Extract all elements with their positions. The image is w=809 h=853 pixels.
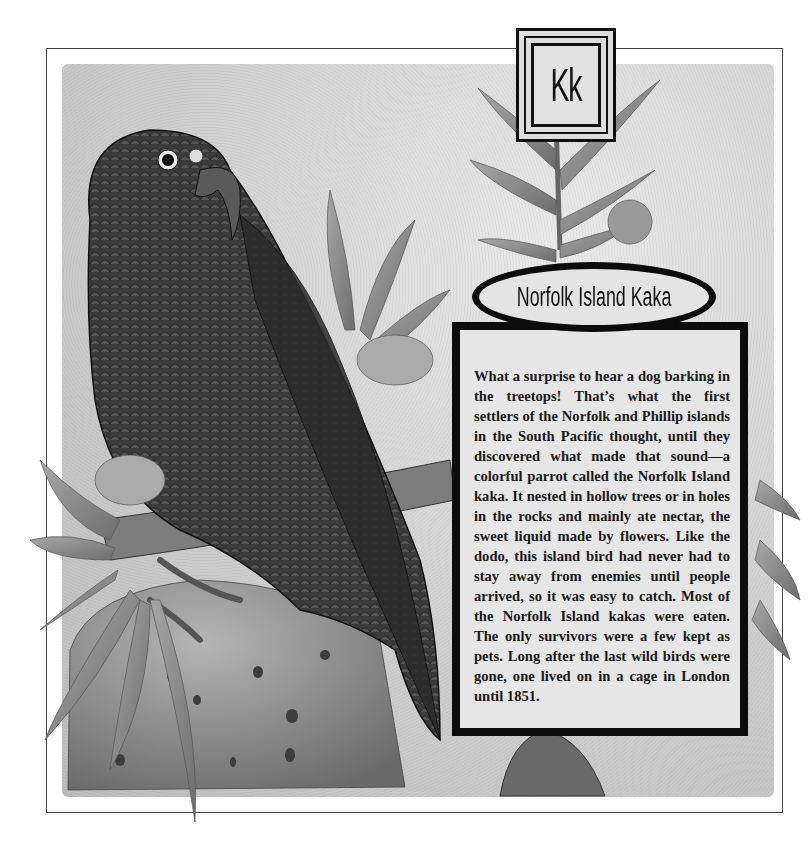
page-title: Norfolk Island Kaka (517, 282, 672, 313)
alphabet-letter: Kk (551, 58, 582, 112)
description-box: What a surprise to hear a dog barking in… (452, 322, 748, 736)
title-oval: Norfolk Island Kaka (472, 262, 716, 332)
badge-letter-panel: Kk (531, 43, 601, 127)
description-text: What a surprise to hear a dog barking in… (460, 330, 740, 706)
seed-pod (500, 730, 605, 796)
alphabet-letter-badge: Kk (516, 28, 616, 142)
